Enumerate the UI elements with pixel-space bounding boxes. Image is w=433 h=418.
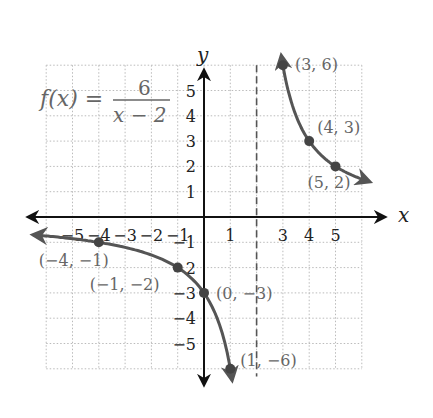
svg-text:1: 1	[225, 226, 235, 245]
equation-numerator: 6	[138, 76, 151, 100]
svg-text:(0, −3): (0, −3)	[216, 284, 272, 303]
svg-text:−5: −5	[61, 226, 85, 245]
svg-text:−2: −2	[140, 226, 164, 245]
svg-text:4: 4	[186, 107, 196, 126]
svg-text:(1, −6): (1, −6)	[240, 351, 296, 370]
svg-text:4: 4	[304, 226, 314, 245]
svg-text:−4: −4	[172, 309, 196, 328]
equation-denominator: x − 2	[113, 103, 166, 127]
equation-lhs: f(x) =	[38, 86, 103, 111]
svg-text:1: 1	[186, 183, 196, 202]
y-axis-label: y	[196, 43, 209, 67]
svg-text:(4, 3): (4, 3)	[317, 118, 360, 137]
svg-text:(−4, −1): (−4, −1)	[39, 251, 109, 270]
svg-text:2: 2	[186, 157, 196, 176]
svg-text:5: 5	[330, 226, 340, 245]
svg-text:−5: −5	[172, 335, 196, 354]
equation-label: f(x) = 6 x − 2	[38, 76, 170, 127]
svg-text:3: 3	[278, 226, 288, 245]
svg-text:−3: −3	[172, 284, 196, 303]
svg-text:3: 3	[186, 132, 196, 151]
rational-function-graph: −5−4−3−2−1134554321−12−3−4−5 (3, 6)(4, 3…	[0, 0, 433, 418]
svg-text:−3: −3	[113, 226, 137, 245]
svg-text:(5, 2): (5, 2)	[308, 173, 351, 192]
svg-text:(−1, −2): (−1, −2)	[90, 275, 160, 294]
x-axis-label: x	[398, 203, 409, 227]
svg-text:−1: −1	[172, 233, 196, 252]
svg-text:(3, 6): (3, 6)	[295, 55, 338, 74]
svg-text:5: 5	[186, 82, 196, 101]
